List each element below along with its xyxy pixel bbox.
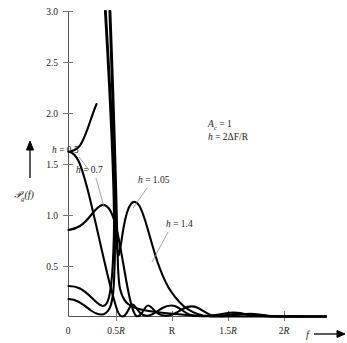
x-tick-label-2R: 2R [279,326,290,336]
y-tick-label-2.5: 2.5 [46,58,58,68]
y-tick-label-3.0: 3.0 [46,7,58,17]
x-tick-labels-group: 0 0.5R R 1.5R 2R [66,326,290,336]
x-tick-label-R: R [169,326,176,336]
x-tick-label-0: 0 [66,326,71,336]
annotation-ac: Ac = 1 [207,119,232,132]
y-tick-label-2.0: 2.0 [46,109,58,119]
psd-chart-svg: 3.0 2.5 2.0 1.5 1.0 0.5 0 0.5R R 1.5R 2R… [0,0,347,343]
curve-h-105-spike-right [106,11,326,317]
curve-label-h-0.7: h = 0.7 [76,165,103,175]
curve-label-h-1.05: h = 1.05 [138,175,170,185]
y-tick-label-0.5: 0.5 [46,262,58,272]
x-axis-name-group: f [306,329,345,340]
chart-figure: 3.0 2.5 2.0 1.5 1.0 0.5 0 0.5R R 1.5R 2R… [0,0,347,343]
annotation-h-def: h = 2ΔF/R [208,132,249,142]
curve-label-h-0.5: h = 0.5 [52,145,79,155]
x-axis-arrow-head [337,331,345,338]
leader-h-1.4 [152,232,168,262]
y-tick-labels-group: 3.0 2.5 2.0 1.5 1.0 0.5 [46,7,58,272]
curve-h-05 [69,152,327,317]
curves-group [69,11,327,317]
curve-h-07 [69,205,327,317]
annotation-block: Ac = 1 h = 2ΔF/R [207,119,249,142]
curve-label-h-1.4: h = 1.4 [166,219,193,229]
y-axis-arrow-head [27,141,34,150]
curve-h-14-spike-right [110,11,326,317]
x-axis-name: f [306,329,310,340]
y-axis-label: 𝒫g(f) [14,189,35,203]
y-tick-label-1.5: 1.5 [46,160,58,170]
x-tick-label-0.5R: 0.5R [107,326,125,336]
y-tick-label-1.0: 1.0 [46,211,58,221]
y-axis-name-group: 𝒫g(f) [14,141,35,203]
curve-labels-group: h = 0.5 h = 0.7 h = 1.05 h = 1.4 [52,145,193,262]
leader-h-0.7 [96,178,104,207]
x-tick-label-1.5R: 1.5R [219,326,237,336]
